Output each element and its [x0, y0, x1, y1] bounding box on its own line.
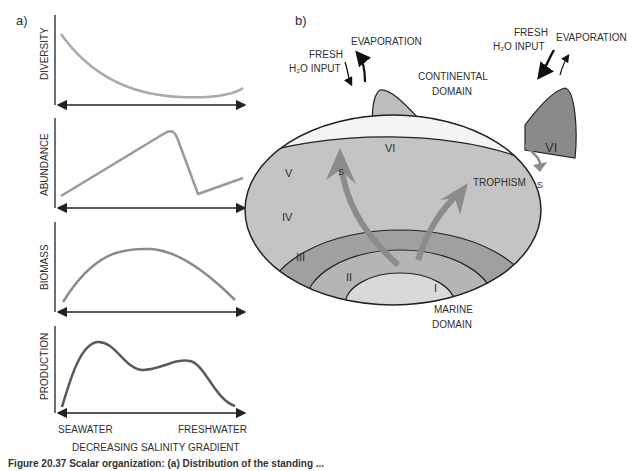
left-evaporation-label: EVAPORATION — [351, 36, 422, 47]
biomass-curve — [63, 249, 235, 302]
zone-label-ii: II — [346, 271, 352, 283]
s-label-left: S — [338, 167, 344, 177]
left-evaporation-arrow — [358, 54, 365, 82]
diversity-curve — [61, 34, 243, 97]
zone-label-vi-left: VI — [385, 142, 395, 154]
zone-label-iv: IV — [282, 211, 293, 223]
x-label-freshwater: FRESHWATER — [178, 424, 247, 435]
zone-label-iii: III — [296, 251, 305, 263]
zone-label-v: V — [285, 167, 293, 179]
s-label-right: S — [537, 180, 543, 190]
marine-domain-line2: DOMAIN — [432, 319, 472, 330]
marine-domain-line1: MARINE — [434, 304, 473, 315]
abundance-curve — [61, 131, 243, 196]
right-evaporation-label: EVAPORATION — [556, 32, 627, 43]
right-fresh-input-line2: H₂O INPUT — [493, 41, 545, 52]
left-fresh-input-line2: H₂O INPUT — [289, 63, 341, 74]
biomass-axis-label: BIOMASS — [39, 244, 50, 290]
zone-label-vi-right: VI — [545, 140, 557, 155]
continental-domain-line1: CONTINENTAL — [418, 71, 488, 82]
production-axis-label: PRODUCTION — [39, 333, 50, 400]
right-fresh-input-arrow — [540, 50, 554, 76]
diversity-axis-label: DIVERSITY — [39, 27, 50, 80]
production-chart: PRODUCTION — [39, 326, 245, 413]
continental-domain-line2: DOMAIN — [432, 86, 472, 97]
abundance-axis-label: ABUNDANCE — [39, 133, 50, 196]
left-fresh-input-arrow — [345, 62, 351, 84]
right-fresh-input-line1: FRESH — [514, 27, 548, 38]
production-curve — [62, 342, 235, 407]
abundance-chart: ABUNDANCE — [39, 118, 245, 208]
trophism-label: TROPHISM — [473, 177, 526, 188]
zone-label-i: I — [434, 282, 437, 294]
right-evaporation-arrow — [560, 56, 568, 75]
x-axis-title: DECREASING SALINITY GRADIENT — [72, 442, 240, 453]
panel-b-label: b) — [295, 13, 307, 28]
biomass-chart: BIOMASS — [39, 222, 245, 312]
left-fresh-input-line1: FRESH — [309, 49, 343, 60]
figure-canvas: a) DIVERSITY ABUNDANCE BIOMASS PRODUCTIO… — [0, 0, 642, 471]
panel-a-label: a) — [16, 13, 28, 28]
x-label-seawater: SEAWATER — [58, 424, 113, 435]
figure-caption: Figure 20.37 Scalar organization: (a) Di… — [8, 458, 324, 469]
diversity-chart: DIVERSITY — [39, 15, 245, 105]
